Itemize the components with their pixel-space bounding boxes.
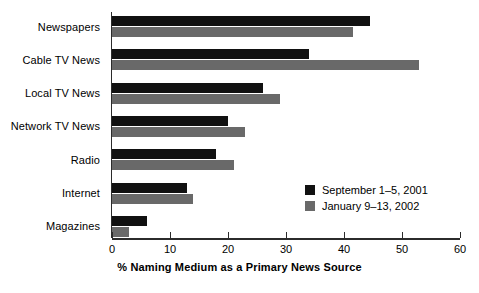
x-axis-line — [112, 238, 460, 240]
bar-group — [112, 116, 460, 138]
x-axis-tick-label: 10 — [150, 243, 190, 256]
x-axis-title: % Naming Medium as a Primary News Source — [0, 261, 479, 273]
bar-series-2002 — [112, 27, 353, 37]
category-label: Internet — [62, 187, 100, 199]
bar-series-2002 — [112, 94, 280, 104]
legend-swatch-icon — [305, 201, 315, 211]
category-label: Newspapers — [38, 21, 100, 33]
bar-series-2001 — [112, 116, 228, 126]
bar-series-2001 — [112, 49, 309, 59]
bar-group — [112, 16, 460, 38]
legend-item: September 1–5, 2001 — [305, 182, 428, 198]
bar-series-2002 — [112, 194, 193, 204]
chart-legend: September 1–5, 2001January 9–13, 2002 — [301, 179, 432, 218]
category-label: Radio — [71, 154, 100, 166]
bar-group — [112, 49, 460, 71]
bar-chart: NewspapersCable TV NewsLocal TV NewsNetw… — [0, 0, 479, 293]
category-axis-labels: NewspapersCable TV NewsLocal TV NewsNetw… — [0, 10, 106, 238]
x-axis-tick — [112, 232, 113, 238]
bar-group — [112, 149, 460, 171]
bar-series-2002 — [112, 127, 245, 137]
legend-label: September 1–5, 2001 — [322, 184, 428, 197]
category-label: Cable TV News — [22, 54, 100, 66]
bar-series-2002 — [112, 160, 234, 170]
legend-label: January 9–13, 2002 — [322, 200, 419, 213]
x-axis-tick-label: 40 — [324, 243, 364, 256]
category-label: Magazines — [46, 220, 100, 232]
x-axis-tick — [228, 232, 229, 238]
bar-group — [112, 83, 460, 105]
bar-series-2001 — [112, 83, 263, 93]
x-axis-tick-label: 20 — [208, 243, 248, 256]
x-axis-tick — [402, 232, 403, 238]
category-label: Local TV News — [25, 87, 100, 99]
x-axis-tick — [170, 232, 171, 238]
bar-series-2001 — [112, 216, 147, 226]
bar-series-2001 — [112, 183, 187, 193]
bar-series-2002 — [112, 227, 129, 237]
legend-item: January 9–13, 2002 — [305, 198, 428, 214]
x-axis-tick — [344, 232, 345, 238]
x-axis-tick — [286, 232, 287, 238]
x-axis-tick-label: 0 — [92, 243, 132, 256]
bar-series-2001 — [112, 149, 216, 159]
legend-swatch-icon — [305, 185, 315, 195]
x-axis-tick-label: 50 — [382, 243, 422, 256]
category-label: Network TV News — [11, 120, 100, 132]
x-axis-tick-label: 30 — [266, 243, 306, 256]
bar-series-2002 — [112, 60, 419, 70]
x-axis-tick — [460, 232, 461, 238]
x-axis-tick-label: 60 — [440, 243, 479, 256]
bar-series-2001 — [112, 16, 370, 26]
